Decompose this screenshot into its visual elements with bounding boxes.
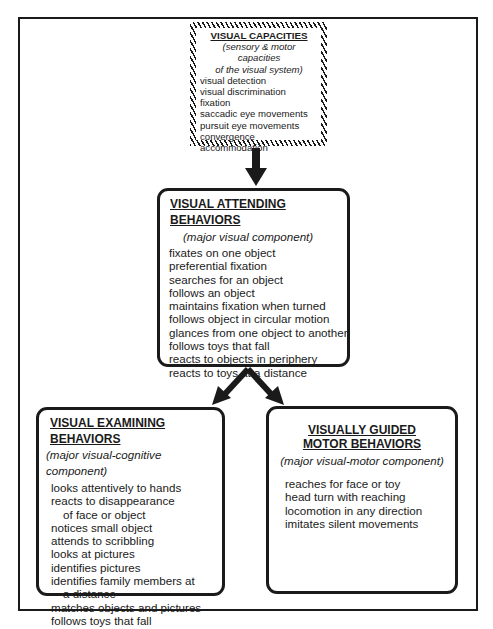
attending-item: follows toys that fall [169, 339, 347, 352]
visual-examining-subtitle: (major visual-cognitive component) [46, 447, 222, 479]
examining-item: follows toys that fall [51, 614, 222, 627]
motor-title-line-2: MOTOR BEHAVIORS [269, 437, 455, 451]
motor-item: locomotion in any direction [269, 504, 455, 517]
attending-item: reacts to toys at a distance [169, 366, 347, 379]
examining-item: looks at pictures [51, 547, 222, 560]
attending-item: reacts to objects in periphery [169, 352, 347, 365]
attending-item: searches for an object [169, 273, 347, 286]
motor-item: reaches for face or toy [269, 477, 455, 490]
examining-item: attends to scribbling [51, 534, 222, 547]
examining-item-continuation: a distance [51, 587, 222, 600]
examining-item: reacts to disappearance [51, 494, 222, 507]
motor-subtitle: (major visual-motor component) [269, 453, 455, 469]
examining-item: matches objects and pictures [51, 601, 222, 614]
arrow-down-icon [245, 148, 267, 186]
attending-item: follows object in circular motion [169, 312, 347, 325]
motor-item: head turn with reaching [269, 490, 455, 503]
motor-item: imitates silent movements [269, 517, 455, 530]
examining-item: identifies family members at [51, 574, 222, 587]
attending-item: preferential fixation [169, 259, 347, 272]
attending-item: maintains fixation when turned [169, 299, 347, 312]
examining-item: identifies pictures [51, 561, 222, 574]
visually-guided-motor-box: VISUALLY GUIDED MOTOR BEHAVIORS (major v… [266, 406, 458, 594]
attending-item: follows an object [169, 286, 347, 299]
examining-item-continuation: of face or object [51, 508, 222, 521]
visual-examining-title: VISUAL EXAMINING BEHAVIORS [50, 415, 222, 447]
visual-attending-box: VISUAL ATTENDING BEHAVIORS (major visual… [157, 188, 350, 367]
motor-title-line-1: VISUALLY GUIDED [269, 423, 455, 437]
visual-attending-title: VISUAL ATTENDING BEHAVIORS [170, 196, 347, 228]
attending-item: glances from one object to another [169, 326, 347, 339]
examining-item: looks attentively to hands [51, 481, 222, 494]
examining-item: notices small object [51, 521, 222, 534]
attending-item: fixates on one object [169, 246, 347, 259]
visual-attending-subtitle: (major visual component) [183, 228, 347, 246]
visual-examining-box: VISUAL EXAMINING BEHAVIORS (major visual… [36, 407, 225, 596]
